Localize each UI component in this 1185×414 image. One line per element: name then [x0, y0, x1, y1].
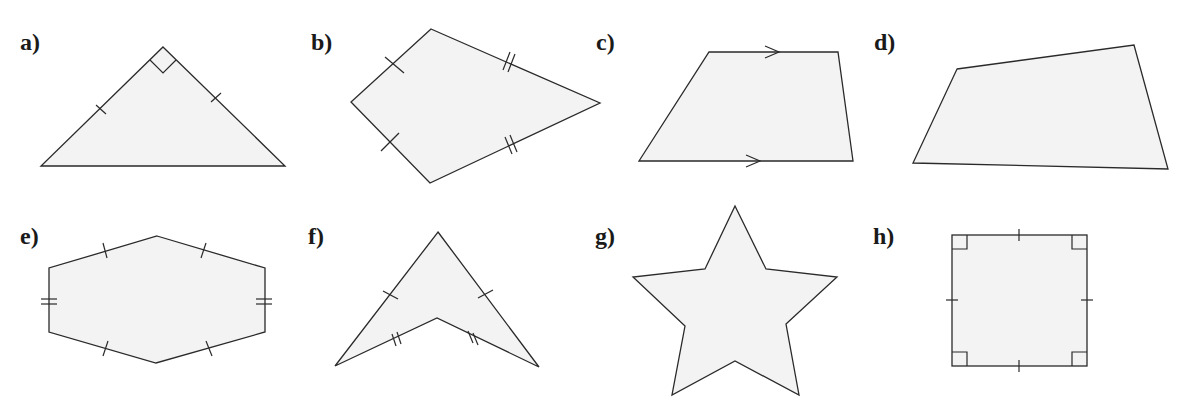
shape-b-kite	[351, 29, 600, 183]
shape-a-triangle	[41, 47, 285, 166]
shape-f-arrowhead	[335, 232, 539, 367]
shape-c-trapezium	[639, 46, 853, 167]
shape-g-star	[633, 206, 837, 395]
shape-d-quadrilateral	[913, 45, 1168, 169]
shapes-canvas	[0, 0, 1185, 414]
shape-e-hexagon	[41, 236, 272, 363]
shape-h-square	[946, 229, 1093, 372]
